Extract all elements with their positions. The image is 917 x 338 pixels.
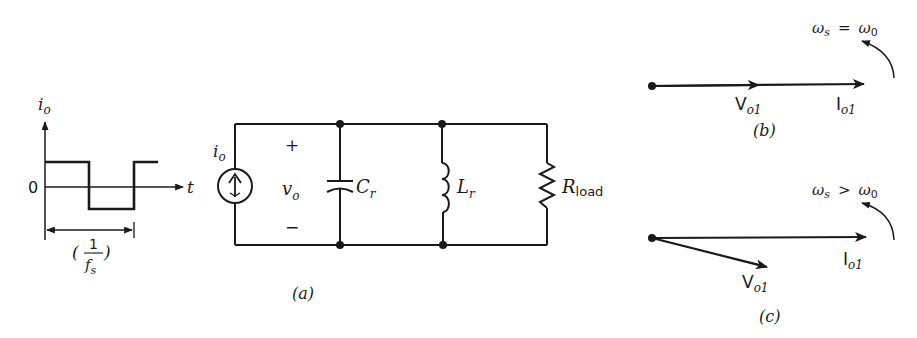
diagram-canvas: io t 0 ( 1 fs ) io + vo − bbox=[0, 0, 917, 338]
inductor-icon bbox=[442, 163, 449, 212]
current-phasor-c bbox=[652, 237, 866, 238]
resonant-circuit: io + vo − Cr Lr Rload (a) bbox=[213, 120, 603, 303]
minus-sign: − bbox=[285, 217, 299, 237]
rotation-arrow-c bbox=[862, 203, 894, 240]
phasor-diagram-b: ωs=ω0 Vo1 Io1 (b) bbox=[648, 19, 894, 140]
period-label: ( 1 fs ) bbox=[72, 236, 111, 277]
source-label: io bbox=[213, 141, 226, 164]
plus-sign: + bbox=[285, 135, 299, 155]
zero-label: 0 bbox=[28, 178, 38, 197]
caption-a: (a) bbox=[292, 284, 314, 303]
current-label-c: Io1 bbox=[843, 249, 863, 272]
svg-text:fs: fs bbox=[84, 256, 97, 277]
resistor-icon bbox=[540, 163, 554, 208]
voltage-label-b: Vo1 bbox=[735, 94, 762, 117]
square-wave-trace bbox=[45, 162, 158, 209]
condition-b: ωs=ω0 bbox=[812, 19, 878, 39]
current-label-b: Io1 bbox=[836, 94, 856, 117]
resistor-label: Rload bbox=[561, 176, 603, 199]
phasor-diagram-c: ωs>ω0 Io1 Vo1 (c) bbox=[648, 181, 894, 326]
voltage-label: vo bbox=[282, 178, 299, 203]
inductor-label: Lr bbox=[456, 176, 476, 201]
condition-c: ωs>ω0 bbox=[812, 181, 878, 201]
voltage-label-c: Vo1 bbox=[742, 272, 769, 295]
svg-text:(: ( bbox=[72, 242, 79, 262]
svg-text:1: 1 bbox=[89, 236, 98, 252]
y-axis-label: io bbox=[38, 94, 51, 117]
rotation-arrow-b bbox=[862, 41, 894, 78]
square-wave-plot: io t 0 ( 1 fs ) bbox=[28, 94, 194, 277]
capacitor-label: Cr bbox=[356, 176, 377, 201]
x-axis-label: t bbox=[187, 177, 194, 197]
caption-c: (c) bbox=[759, 307, 780, 326]
svg-text:): ) bbox=[103, 242, 111, 262]
voltage-phasor-b bbox=[652, 85, 759, 86]
current-source-icon bbox=[218, 169, 252, 203]
caption-b: (b) bbox=[753, 121, 776, 140]
voltage-phasor-c bbox=[652, 238, 767, 267]
